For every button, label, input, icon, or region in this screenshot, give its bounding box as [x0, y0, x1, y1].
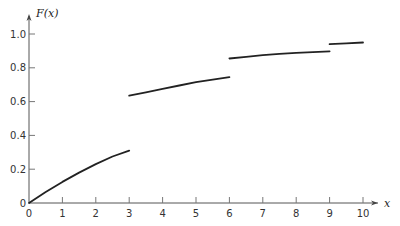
- x-tick-label: 10: [357, 208, 370, 219]
- y-tick-label: 0.8: [10, 62, 26, 73]
- y-axis-label: F(x): [35, 7, 58, 20]
- x-tick-label: 5: [193, 208, 199, 219]
- y-tick-label: 0.6: [10, 96, 26, 107]
- y-tick-label: 0.2: [10, 164, 26, 175]
- x-tick-label: 7: [260, 208, 266, 219]
- x-tick-label: 1: [59, 208, 65, 219]
- cdf-segment-2: [129, 77, 229, 96]
- x-tick-label: 4: [159, 208, 165, 219]
- ticks: 01234567891000.20.40.60.81.0: [10, 29, 369, 220]
- x-tick-label: 6: [226, 208, 232, 219]
- x-axis-label: x: [384, 197, 391, 210]
- y-tick-label: 0: [20, 198, 26, 209]
- axes: [27, 14, 379, 206]
- cdf-segment-4: [330, 43, 363, 45]
- cdf-curves: [29, 43, 363, 204]
- cdf-segment-3: [229, 51, 329, 58]
- step-cdf-chart: 01234567891000.20.40.60.81.0 F(x) x: [0, 0, 400, 226]
- y-tick-label: 1.0: [10, 29, 26, 40]
- y-tick-label: 0.4: [10, 130, 26, 141]
- x-tick-label: 8: [293, 208, 299, 219]
- x-tick-label: 0: [26, 208, 32, 219]
- x-tick-label: 3: [126, 208, 132, 219]
- cdf-segment-1: [29, 151, 129, 203]
- x-tick-label: 9: [326, 208, 332, 219]
- x-tick-label: 2: [93, 208, 99, 219]
